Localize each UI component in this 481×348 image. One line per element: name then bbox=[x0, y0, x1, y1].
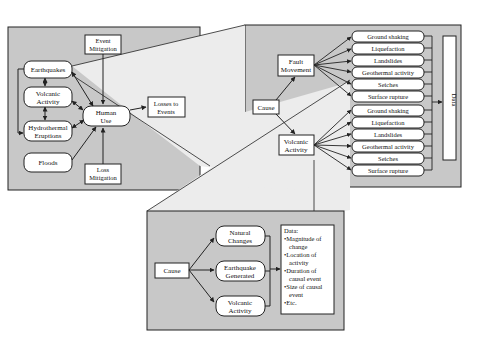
node-fault-movement: Fault Movement bbox=[278, 55, 314, 76]
svg-text:Mitigation: Mitigation bbox=[89, 174, 117, 181]
svg-text:•Location of: •Location of bbox=[284, 251, 317, 258]
svg-text:•Duration of: •Duration of bbox=[284, 267, 317, 274]
node-cause-right: Cause bbox=[253, 100, 279, 114]
hazard-diagram: Earthquakes Volcanic Activity Hydrotherm… bbox=[0, 0, 481, 348]
svg-text:Movement: Movement bbox=[281, 66, 311, 74]
svg-text:•Magnitude of: •Magnitude of bbox=[284, 235, 322, 242]
svg-text:change: change bbox=[289, 243, 308, 250]
svg-text:Use: Use bbox=[101, 117, 112, 125]
svg-text:•Etc.: •Etc. bbox=[284, 299, 297, 306]
svg-text:Liquefaction: Liquefaction bbox=[371, 119, 405, 126]
node-data-box: Data: •Magnitude of change •Location of … bbox=[281, 225, 334, 314]
svg-text:Surface rupture: Surface rupture bbox=[368, 93, 408, 100]
svg-text:Event: Event bbox=[95, 37, 110, 44]
svg-text:Volcanic: Volcanic bbox=[284, 138, 308, 146]
node-data-right: Data bbox=[443, 36, 458, 160]
svg-text:Human: Human bbox=[96, 109, 117, 117]
effects-group-1: Ground shaking Liquefaction Landslides G… bbox=[352, 31, 424, 102]
svg-text:Geothermal activity: Geothermal activity bbox=[362, 143, 415, 150]
svg-text:Activity: Activity bbox=[229, 307, 252, 315]
svg-text:Volcanic: Volcanic bbox=[36, 90, 60, 98]
svg-text:Surface rupture: Surface rupture bbox=[368, 167, 408, 174]
svg-text:Seiches: Seiches bbox=[378, 81, 398, 88]
svg-text:Events: Events bbox=[157, 108, 175, 115]
node-hydrothermal-eruptions: Hydrothermal Eruptions bbox=[24, 121, 72, 141]
node-loss-mitigation: Loss Mitigation bbox=[85, 164, 121, 184]
svg-text:Ground shaking: Ground shaking bbox=[367, 107, 409, 114]
node-human-use: Human Use bbox=[83, 106, 130, 126]
svg-text:Landslides: Landslides bbox=[374, 57, 403, 64]
svg-text:Hydrothermal: Hydrothermal bbox=[28, 124, 67, 132]
svg-text:Data: Data bbox=[450, 93, 458, 107]
svg-text:Liquefaction: Liquefaction bbox=[371, 45, 405, 52]
svg-text:event: event bbox=[289, 291, 303, 298]
svg-text:Volcanic: Volcanic bbox=[228, 299, 252, 307]
svg-text:Cause: Cause bbox=[257, 104, 274, 112]
svg-text:Cause: Cause bbox=[163, 267, 180, 275]
svg-text:causal event: causal event bbox=[289, 275, 321, 282]
svg-text:Natural: Natural bbox=[230, 229, 251, 237]
svg-text:Floods: Floods bbox=[38, 159, 57, 167]
svg-text:Eruptions: Eruptions bbox=[34, 132, 61, 140]
svg-text:Mitigation: Mitigation bbox=[89, 45, 117, 52]
svg-text:activity: activity bbox=[289, 259, 309, 266]
svg-text:Seiches: Seiches bbox=[378, 155, 398, 162]
svg-text:Earthquake: Earthquake bbox=[224, 264, 256, 272]
svg-text:Earthquakes: Earthquakes bbox=[31, 66, 66, 74]
node-losses-to-events: Losses to Events bbox=[148, 97, 185, 117]
svg-text:Geothermal activity: Geothermal activity bbox=[362, 69, 415, 76]
svg-text:Losses to: Losses to bbox=[154, 100, 178, 107]
svg-text:Fault: Fault bbox=[289, 58, 303, 66]
node-earthquake-generated: Earthquake Generated bbox=[216, 261, 265, 281]
node-floods: Floods bbox=[24, 153, 72, 172]
node-volcanic-activity: Volcanic Activity bbox=[24, 87, 72, 107]
node-cause-bottom: Cause bbox=[155, 263, 189, 278]
svg-text:Activity: Activity bbox=[285, 146, 308, 154]
svg-text:Ground shaking: Ground shaking bbox=[367, 33, 409, 40]
node-volcanic-activity-bottom: Volcanic Activity bbox=[216, 296, 265, 316]
node-natural-changes: Natural Changes bbox=[216, 226, 265, 246]
node-event-mitigation: Event Mitigation bbox=[85, 35, 121, 54]
svg-text:Changes: Changes bbox=[228, 237, 252, 245]
node-earthquakes: Earthquakes bbox=[24, 61, 72, 78]
effects-group-2: Ground shaking Liquefaction Landslides G… bbox=[352, 105, 424, 176]
svg-text:Generated: Generated bbox=[226, 272, 255, 280]
svg-text:Loss: Loss bbox=[97, 166, 110, 173]
node-volcanic-activity-right: Volcanic Activity bbox=[279, 135, 314, 155]
svg-text:Activity: Activity bbox=[37, 98, 60, 106]
svg-text:Landslides: Landslides bbox=[374, 131, 403, 138]
svg-text:Data:: Data: bbox=[284, 227, 298, 234]
svg-text:•Size of causal: •Size of causal bbox=[284, 283, 323, 290]
